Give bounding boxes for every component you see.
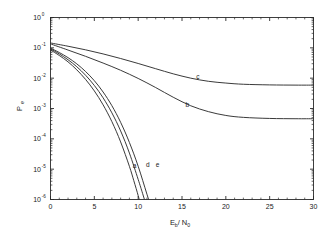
svg-text:-1: -1 (42, 42, 47, 47)
svg-text:10: 10 (33, 75, 41, 82)
x-tick-label: 0 (49, 203, 53, 210)
svg-text:10: 10 (33, 135, 41, 142)
curve-label-d: d (146, 161, 150, 168)
x-tick-label: 20 (222, 203, 230, 210)
curve-label-a: a (133, 162, 137, 169)
plot-area: 051015202530 10010-110-210-310-410-510-6… (0, 0, 335, 240)
x-tick-label: 5 (92, 203, 96, 210)
curve-label-e: e (156, 161, 160, 168)
svg-text:10: 10 (33, 166, 41, 173)
x-tick-label: 30 (310, 203, 318, 210)
svg-text:-6: -6 (42, 194, 47, 199)
x-tick-label: 10 (134, 203, 142, 210)
svg-text:-5: -5 (42, 164, 47, 169)
svg-text:0: 0 (187, 222, 190, 228)
svg-text:0: 0 (42, 12, 45, 17)
svg-text:-4: -4 (42, 133, 47, 138)
svg-text:-3: -3 (42, 103, 47, 108)
x-tick-label: 25 (266, 203, 274, 210)
svg-text:10: 10 (33, 44, 41, 51)
svg-text:10: 10 (33, 14, 41, 21)
svg-text:P: P (15, 106, 24, 111)
svg-text:10: 10 (33, 105, 41, 112)
svg-text:e: e (19, 101, 25, 104)
curve-label-b: b (185, 101, 189, 108)
x-tick-label: 15 (178, 203, 186, 210)
chart-figure: 051015202530 10010-110-210-310-410-510-6… (0, 0, 335, 240)
svg-text:10: 10 (33, 196, 41, 203)
svg-text:-2: -2 (42, 73, 47, 78)
